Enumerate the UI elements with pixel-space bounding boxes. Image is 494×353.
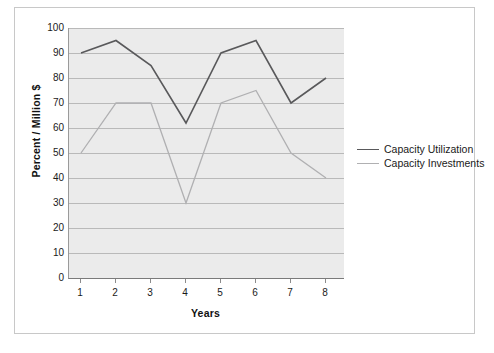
chart-figure: 100 90 80 70 60 50 40 30 20 10 0 Percent…	[0, 0, 494, 353]
x-tick-label: 1	[70, 287, 90, 298]
series-canvas	[69, 28, 344, 278]
y-tick-label: 100	[34, 23, 64, 33]
x-axis-title: Years	[68, 307, 343, 319]
x-tick-label: 3	[140, 287, 160, 298]
y-tick-label: 20	[34, 223, 64, 233]
x-tick-label: 6	[245, 287, 265, 298]
x-tick-label: 8	[315, 287, 335, 298]
legend-line-swatch	[357, 163, 379, 164]
legend-label: Capacity Investments	[384, 157, 484, 169]
x-tick-label: 5	[210, 287, 230, 298]
x-tick-mark	[325, 279, 326, 283]
line-capacity-utilization	[81, 41, 326, 124]
legend-item-capacity-investments: Capacity Investments	[357, 156, 477, 170]
plot-area	[68, 28, 344, 279]
x-tick-mark	[150, 279, 151, 283]
x-tick-mark	[80, 279, 81, 283]
x-tick-mark	[115, 279, 116, 283]
x-tick-label: 2	[105, 287, 125, 298]
line-capacity-investments	[81, 91, 326, 204]
y-tick-label: 0	[34, 273, 64, 283]
legend-item-capacity-utilization: Capacity Utilization	[357, 142, 477, 156]
x-tick-mark	[255, 279, 256, 283]
legend-label: Capacity Utilization	[384, 143, 473, 155]
x-tick-mark	[220, 279, 221, 283]
y-axis-title: Percent / Million $	[30, 51, 42, 211]
x-tick-mark	[185, 279, 186, 283]
x-tick-mark	[290, 279, 291, 283]
x-tick-label: 7	[280, 287, 300, 298]
legend-line-swatch	[357, 149, 379, 150]
y-tick-label: 10	[34, 248, 64, 258]
x-tick-label: 4	[175, 287, 195, 298]
chart-legend: Capacity Utilization Capacity Investment…	[357, 142, 477, 170]
